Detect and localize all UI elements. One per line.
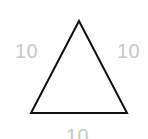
right-side-length-label: 10 bbox=[117, 41, 140, 61]
bottom-side-length-label: 10 bbox=[66, 126, 89, 139]
left-side-length-label: 10 bbox=[15, 41, 38, 61]
triangle-outline bbox=[31, 21, 127, 113]
geometry-figure: 10 10 10 bbox=[0, 0, 148, 139]
triangle-shape bbox=[0, 0, 148, 139]
